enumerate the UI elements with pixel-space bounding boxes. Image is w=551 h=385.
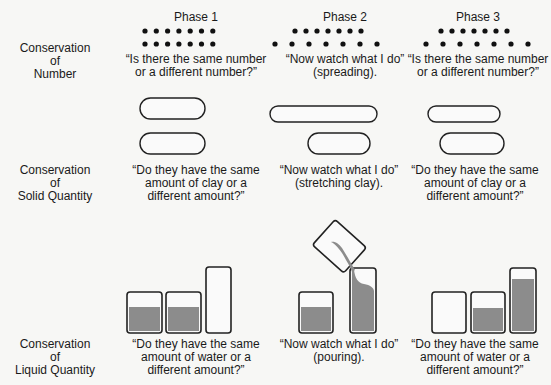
- glasses-phase-3: [432, 268, 536, 333]
- dots-phase-1: [142, 28, 215, 46]
- dots-phase-3: [423, 28, 530, 46]
- dots-phase-2: [272, 28, 379, 46]
- clay-phase-3: [428, 106, 504, 154]
- conservation-illustrations: [0, 0, 551, 385]
- clay-phase-1: [140, 98, 205, 154]
- glasses-phase-1: [127, 267, 231, 333]
- glasses-phase-2: [299, 220, 376, 333]
- clay-phase-2: [270, 106, 377, 154]
